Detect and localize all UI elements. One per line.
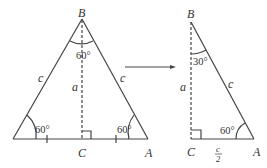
side-left: [13, 19, 82, 139]
right-triangle: [191, 22, 254, 139]
diagram-canvas: B C A c c a 60° 60° 60° B C A a c 30° 60…: [0, 0, 267, 168]
base-label-fraction: c 2: [215, 144, 222, 164]
vertex-label-a: A: [144, 146, 153, 160]
altitude-label-a-right: a: [180, 80, 186, 94]
fraction-numerator: c: [216, 144, 220, 154]
angle-label-bottom-right: 60°: [117, 124, 132, 135]
side-label-c-right: c: [120, 71, 126, 85]
vertex-label-c-right: C: [187, 145, 196, 159]
hypotenuse-label-c: c: [228, 77, 234, 91]
right-angle-marker-right: [191, 130, 201, 139]
vertex-label-c: C: [78, 146, 87, 160]
fraction-denominator: 2: [216, 154, 221, 164]
angle-arc-bottom-right-right: [236, 123, 245, 139]
angle-label-bottom-right-right: 60°: [220, 125, 235, 136]
side-right: [82, 19, 148, 139]
right-angle-marker: [82, 131, 91, 139]
hypotenuse: [191, 22, 254, 139]
transform-arrow: [125, 65, 176, 69]
side-label-c-left: c: [38, 71, 44, 85]
arrow-head-icon: [170, 65, 176, 69]
angle-label-bottom-left: 60°: [35, 124, 50, 135]
vertex-label-b-right: B: [187, 7, 195, 21]
vertex-label-a-right: A: [252, 145, 261, 159]
angle-label-top: 60°: [76, 50, 91, 61]
angle-arc-top-right: [191, 50, 206, 54]
vertex-label-b: B: [78, 6, 86, 20]
altitude-label-a: a: [72, 80, 78, 94]
angle-label-top-right: 30°: [193, 56, 208, 67]
